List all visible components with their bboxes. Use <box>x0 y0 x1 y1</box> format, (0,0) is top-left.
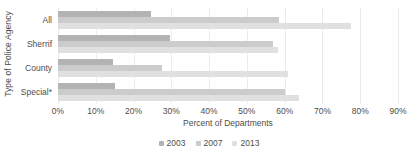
y-tick-label-county: County <box>16 56 56 80</box>
chart-legend: 200320072013 <box>0 138 418 148</box>
legend-item-2007[interactable]: 2007 <box>196 138 223 148</box>
bar-row <box>58 23 398 29</box>
x-tick-label: 60% <box>276 106 293 116</box>
bar-2013 <box>58 23 351 29</box>
x-tick-label: 20% <box>125 106 142 116</box>
y-tick-label-all: All <box>16 8 56 32</box>
bar-2013 <box>58 47 278 53</box>
x-tick-label: 90% <box>389 106 406 116</box>
x-axis-title: Percent of Departments <box>58 118 398 128</box>
legend-swatch-icon <box>232 141 237 146</box>
legend-item-2013[interactable]: 2013 <box>232 138 259 148</box>
legend-swatch-icon <box>196 141 201 146</box>
bar-row <box>58 71 398 77</box>
legend-label: 2007 <box>204 138 223 148</box>
bar-2013 <box>58 71 288 77</box>
bar-chart: Type of Police Agency All Sherrif County… <box>0 0 418 158</box>
gridline <box>398 8 399 104</box>
bar-group <box>58 32 398 56</box>
x-tick-label: 80% <box>352 106 369 116</box>
y-axis-title-text: Type of Police Agency <box>3 11 13 97</box>
legend-label: 2003 <box>167 138 186 148</box>
legend-label: 2013 <box>240 138 259 148</box>
bar-groups <box>58 8 398 104</box>
plot-area <box>58 8 398 104</box>
x-tick-label: 0% <box>52 106 64 116</box>
legend-swatch-icon <box>159 141 164 146</box>
bar-2013 <box>58 95 299 101</box>
bar-row <box>58 95 398 101</box>
bar-row <box>58 47 398 53</box>
x-tick-label: 40% <box>201 106 218 116</box>
legend-item-2003[interactable]: 2003 <box>159 138 186 148</box>
bar-group <box>58 80 398 104</box>
y-tick-label-sherrif: Sherrif <box>16 32 56 56</box>
y-axis-title: Type of Police Agency <box>0 0 16 108</box>
bar-group <box>58 8 398 32</box>
x-axis-tick-labels: 0%10%20%30%40%50%60%70%80%90% <box>58 106 398 118</box>
x-tick-label: 50% <box>238 106 255 116</box>
y-axis-tick-labels: All Sherrif County Special* <box>16 8 56 104</box>
x-tick-label: 10% <box>87 106 104 116</box>
x-tick-label: 30% <box>163 106 180 116</box>
y-tick-label-special: Special* <box>16 80 56 104</box>
x-tick-label: 70% <box>314 106 331 116</box>
bar-group <box>58 56 398 80</box>
